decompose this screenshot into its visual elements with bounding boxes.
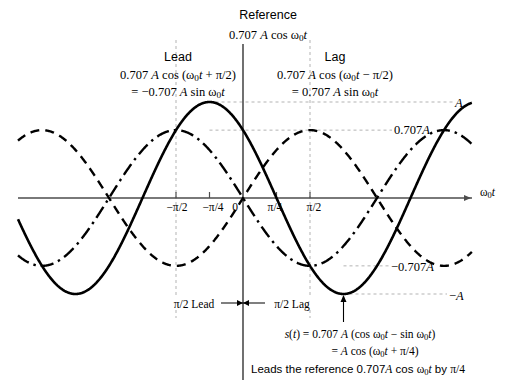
- xtick-minus-pi-4: −π/4: [202, 200, 223, 214]
- result-expression-2: = A cos (ω0t + π/4): [331, 344, 418, 360]
- lead-expression-2: = −0.707 A sin ω0t: [131, 85, 224, 102]
- lag-expression-2: = 0.707 A sin ω0t: [292, 85, 378, 102]
- xtick-pi-4: π/4: [268, 200, 283, 214]
- span-lead-arrow-right: [237, 300, 243, 306]
- level-label-neg0707A: −0.707A: [391, 260, 434, 276]
- result-expression-1: s(t) = 0.707 A (cos ω0t − sin ω0t): [285, 327, 436, 343]
- level-label-negA: −A: [449, 289, 464, 305]
- span-label-lead: π/2 Lead: [174, 297, 215, 311]
- reference-expression: 0.707 A cos ω0t: [229, 28, 307, 45]
- xtick-pi-2: π/2: [307, 200, 322, 214]
- lead-heading: Lead: [164, 50, 192, 66]
- x-axis-arrow: [464, 195, 471, 201]
- x-axis-label: ω0t: [480, 185, 495, 201]
- result-expression-3: Leads the reference 0.707A cos ω0t by π/…: [251, 362, 465, 378]
- lag-expression-1: 0.707 A cos (ω0t − π/2): [277, 68, 393, 85]
- result-pointer-arrow: [341, 295, 347, 302]
- xtick-minus-pi-2: −π/2: [166, 200, 187, 214]
- reference-title: Reference: [239, 8, 297, 24]
- span-lag-arrow-left: [243, 300, 249, 306]
- lead-expression-1: 0.707 A cos (ω0t + π/2): [120, 68, 236, 85]
- xtick-zero: 0: [232, 200, 238, 214]
- lag-heading: Lag: [325, 50, 346, 66]
- waveform-plot: [0, 0, 516, 387]
- span-label-lag: π/2 Lag: [274, 297, 310, 311]
- waveform-figure: Reference 0.707 A cos ω0t Lead 0.707 A c…: [0, 0, 516, 387]
- level-label-0707A: 0.707A: [394, 123, 430, 139]
- level-label-A: A: [455, 96, 463, 112]
